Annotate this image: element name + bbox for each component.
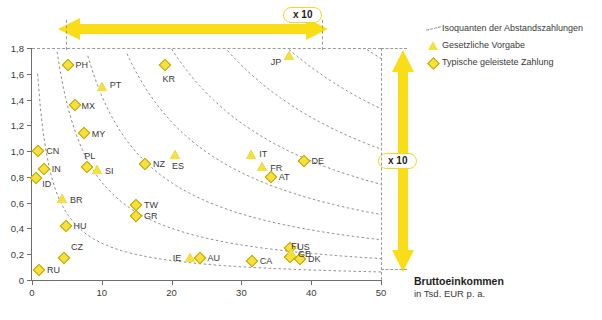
x-axis-title-line2: in Tsd. EUR p. a.	[414, 288, 504, 300]
data-point-ie[interactable]	[185, 253, 195, 262]
y-tick-label: 0,4	[11, 223, 24, 234]
isoquant-curve-6	[227, 51, 381, 150]
data-point-label-tw: TW	[144, 200, 158, 210]
legend-label-statutory: Gesetzliche Vorgabe	[442, 39, 525, 51]
plot-area: 00,20,40,60,81,01,21,41,61,8 01020304050…	[32, 48, 381, 280]
legend-item-isoquant: Isoquanten der Abstandszahlungen	[426, 22, 602, 35]
legend-item-statutory: Gesetzliche Vorgabe	[426, 39, 602, 52]
dashed-line-icon	[426, 22, 442, 35]
x-axis-title-line1: Bruttoeinkommen	[414, 275, 504, 288]
x-tick-label: 30	[236, 287, 247, 298]
data-point-label-kr: KR	[163, 74, 176, 84]
scale-guide-right	[322, 20, 323, 50]
x-axis-title: Bruttoeinkommen in Tsd. EUR p. a.	[414, 275, 504, 300]
data-point-label-hu: HU	[74, 221, 87, 231]
data-point-br[interactable]	[57, 194, 67, 203]
data-point-label-de: DE	[312, 156, 325, 166]
legend-label-isoquant: Isoquanten der Abstandszahlungen	[442, 22, 583, 34]
data-point-label-ie: IE	[173, 253, 182, 263]
data-point-label-cn: CN	[46, 146, 59, 156]
x-tick-label: 50	[376, 287, 387, 298]
data-point-pt[interactable]	[97, 82, 107, 91]
data-point-label-ph: PH	[76, 60, 89, 70]
y-tick-label: 1,4	[11, 94, 24, 105]
x-tick	[102, 280, 103, 285]
y-tick-label: 1,8	[11, 43, 24, 54]
y-tick	[27, 203, 32, 204]
x-axis-line	[31, 280, 381, 281]
data-point-label-ca: CA	[260, 256, 273, 266]
data-point-label-si: SI	[105, 166, 114, 176]
x-tick	[32, 280, 33, 285]
vertical-scale-arrow-label: x 10	[378, 153, 417, 169]
data-point-label-ru: RU	[47, 265, 60, 275]
data-point-label-cz: CZ	[71, 242, 83, 252]
plot-frame-right	[381, 48, 382, 280]
data-point-label-pt: PT	[110, 80, 122, 90]
y-tick-label: 0,8	[11, 171, 24, 182]
data-point-label-au: AU	[208, 253, 221, 263]
y-tick	[27, 228, 32, 229]
x-tick	[172, 280, 173, 285]
data-point-es[interactable]	[170, 150, 180, 159]
x-tick	[381, 280, 382, 285]
data-point-label-at: AT	[279, 172, 290, 182]
data-point-label-gr: GR	[144, 211, 158, 221]
scale-guide-bottom	[381, 269, 407, 270]
y-tick-label: 0	[19, 275, 24, 286]
data-point-label-jp: JP	[271, 57, 282, 67]
chart-legend: Isoquanten der Abstandszahlungen Gesetzl…	[426, 22, 602, 73]
legend-label-typical: Typische geleistete Zahlung	[442, 56, 554, 68]
y-tick	[27, 100, 32, 101]
diamond-marker-icon	[426, 56, 442, 69]
x-tick-label: 20	[166, 287, 177, 298]
data-point-label-mx: MX	[82, 101, 96, 111]
data-point-label-gb: GB	[298, 249, 311, 259]
data-point-label-fr: FR	[270, 163, 282, 173]
y-tick	[27, 48, 32, 49]
y-tick-label: 1,0	[11, 146, 24, 157]
y-tick	[27, 125, 32, 126]
chart-root: x 10 x 10 Isoquanten der Abstandszahlung…	[0, 0, 602, 320]
y-tick	[27, 74, 32, 75]
isoquant-curve-8	[367, 50, 381, 59]
x-tick-label: 10	[97, 287, 108, 298]
triangle-marker-icon	[426, 39, 442, 52]
data-point-gb[interactable]	[286, 248, 296, 257]
legend-item-typical: Typische geleistete Zahlung	[426, 56, 602, 69]
data-point-label-id: ID	[42, 179, 51, 189]
data-point-label-pl: PL	[84, 151, 95, 161]
data-point-label-es: ES	[172, 161, 184, 171]
data-point-label-nz: NZ	[153, 159, 165, 169]
y-tick-label: 0,2	[11, 249, 24, 260]
x-tick-label: 0	[29, 287, 34, 298]
y-tick-label: 1,6	[11, 68, 24, 79]
data-point-jp[interactable]	[284, 51, 294, 60]
data-point-it[interactable]	[246, 150, 256, 159]
scale-guide-top	[381, 48, 407, 49]
y-tick-label: 1,2	[11, 120, 24, 131]
x-tick	[311, 280, 312, 285]
isoquant-curve-7	[289, 49, 381, 108]
x-tick	[241, 280, 242, 285]
data-point-label-br: BR	[70, 195, 83, 205]
horizontal-scale-arrow-label: x 10	[283, 7, 322, 23]
y-tick-label: 0,6	[11, 197, 24, 208]
y-tick	[27, 254, 32, 255]
x-tick-label: 40	[306, 287, 317, 298]
data-point-label-it: IT	[259, 149, 267, 159]
scale-guide-left	[66, 20, 67, 50]
data-point-si[interactable]	[92, 165, 102, 174]
data-point-label-in: IN	[52, 164, 61, 174]
data-point-label-my: MY	[92, 129, 106, 139]
data-point-fr[interactable]	[257, 162, 267, 171]
